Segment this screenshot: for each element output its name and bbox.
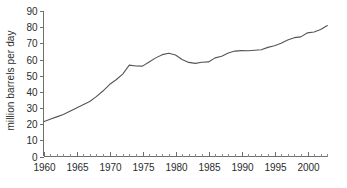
y-tick-label: 60 bbox=[26, 55, 38, 66]
x-tick-label: 1990 bbox=[231, 162, 254, 173]
oil-production-chart: million barrels per day 0102030405060708… bbox=[0, 0, 347, 188]
y-tick-label: 80 bbox=[26, 22, 38, 33]
data-line-world-oil-production bbox=[44, 26, 328, 122]
y-tick-label: 40 bbox=[26, 87, 38, 98]
y-tick-label: 70 bbox=[26, 38, 38, 49]
y-tick-label: 50 bbox=[26, 71, 38, 82]
x-tick-labels: 196019651970197519801985199019952000 bbox=[33, 162, 320, 173]
x-tick-label: 1965 bbox=[66, 162, 89, 173]
x-tick-label: 1960 bbox=[33, 162, 56, 173]
x-tick-label: 2000 bbox=[297, 162, 320, 173]
y-tick-label: 20 bbox=[26, 119, 38, 130]
x-tick-label: 1980 bbox=[165, 162, 188, 173]
chart-plot-area: 0102030405060708090 19601965197019751980… bbox=[0, 0, 347, 188]
x-tick-label: 1995 bbox=[264, 162, 287, 173]
y-tick-label: 30 bbox=[26, 103, 38, 114]
y-tick-marks bbox=[40, 12, 44, 158]
x-tick-label: 1970 bbox=[99, 162, 122, 173]
x-tick-label: 1985 bbox=[198, 162, 221, 173]
data-series-group bbox=[44, 26, 328, 122]
y-tick-labels: 0102030405060708090 bbox=[26, 6, 38, 163]
x-axis: 196019651970197519801985199019952000 bbox=[33, 152, 328, 173]
x-tick-label: 1975 bbox=[132, 162, 155, 173]
y-tick-label: 90 bbox=[26, 6, 38, 17]
y-axis: 0102030405060708090 bbox=[26, 6, 43, 163]
y-tick-label: 10 bbox=[26, 135, 38, 146]
